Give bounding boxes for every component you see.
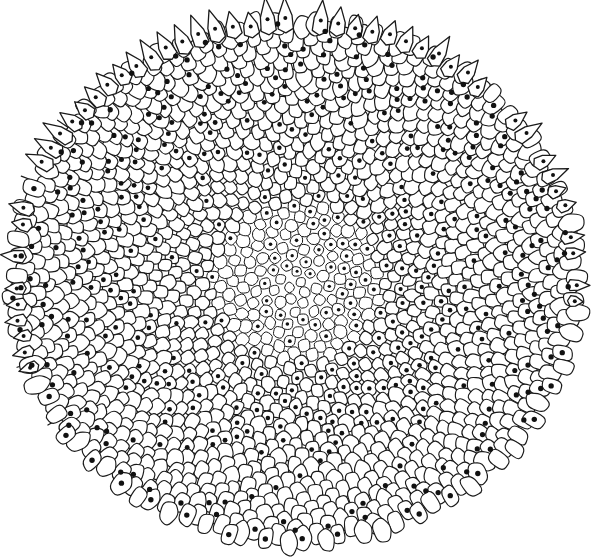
- floret-dot: [288, 339, 292, 343]
- floret-dot: [520, 298, 525, 303]
- floret-dot: [283, 162, 287, 166]
- floret-dot: [447, 289, 452, 294]
- floret-dot: [359, 421, 364, 426]
- floret-cell: [155, 325, 169, 338]
- floret-dot: [301, 318, 305, 322]
- floret-dot: [448, 493, 453, 498]
- floret-dot: [390, 212, 394, 216]
- bract-dot: [134, 64, 138, 68]
- floret-dot: [367, 88, 372, 93]
- floret-dot: [206, 84, 211, 89]
- floret-dot: [128, 301, 133, 306]
- floret-cell: [352, 253, 364, 265]
- floret-dot: [262, 100, 267, 105]
- floret-dot: [408, 390, 413, 395]
- floret-dot: [263, 195, 267, 199]
- floret-dot: [159, 166, 164, 171]
- bract-dot: [266, 17, 270, 21]
- floret-cell: [285, 294, 296, 305]
- floret-dot: [216, 150, 221, 155]
- bract-dot: [336, 22, 340, 26]
- floret-dot: [338, 84, 343, 89]
- floret-dot: [113, 325, 118, 330]
- floret-dot: [470, 144, 475, 149]
- floret-dot: [464, 469, 469, 474]
- floret-dot: [311, 222, 315, 226]
- floret-dot: [210, 428, 215, 433]
- bract-dot: [370, 30, 374, 34]
- floret-dot: [503, 218, 508, 223]
- floret-dot: [216, 374, 220, 378]
- floret-dot: [407, 96, 412, 101]
- floret-dot: [77, 236, 82, 241]
- floret-dot: [278, 424, 283, 429]
- floret-cell: [6, 268, 27, 283]
- floret-dot: [146, 112, 151, 117]
- floret-dot: [131, 437, 136, 442]
- floret-dot: [235, 434, 240, 439]
- floret-dot: [10, 295, 15, 300]
- floret-dot: [400, 330, 404, 334]
- floret-dot: [162, 105, 167, 110]
- floret-dot: [465, 94, 470, 99]
- floret-dot: [396, 346, 400, 350]
- floret-dot: [398, 463, 403, 468]
- floret-dot: [377, 215, 381, 219]
- floret-dot: [385, 52, 390, 57]
- floret-dot: [526, 390, 531, 395]
- floret-dot: [441, 465, 446, 470]
- floret-dot: [277, 145, 282, 150]
- floret-dot: [497, 284, 502, 289]
- floret-dot: [95, 207, 100, 212]
- floret-dot: [270, 92, 275, 97]
- floret-dot: [118, 469, 123, 474]
- floret-dot: [133, 160, 138, 165]
- bract-dot: [83, 108, 87, 112]
- capitulum-diagram: [0, 0, 600, 558]
- bract-dot: [575, 283, 579, 287]
- floret-dot: [364, 278, 368, 282]
- bract-dot: [164, 46, 168, 50]
- floret-dot: [114, 272, 119, 277]
- floret-dot: [327, 449, 332, 454]
- floret-dot: [327, 38, 332, 43]
- bract-dot: [249, 24, 253, 28]
- floret-cell: [334, 273, 346, 284]
- bract-dot: [180, 40, 184, 44]
- floret-dot: [281, 438, 286, 443]
- floret-dot: [317, 248, 321, 252]
- floret-dot: [448, 101, 453, 106]
- floret-dot: [166, 131, 171, 136]
- floret-dot: [462, 285, 467, 290]
- bract-dot: [213, 27, 217, 31]
- bract-dot: [319, 19, 323, 23]
- floret-dot: [309, 112, 314, 117]
- bract-dot: [466, 71, 470, 75]
- floret-dot: [541, 316, 546, 321]
- floret-dot: [169, 120, 174, 125]
- floret-dot: [566, 284, 571, 289]
- bract-dot: [571, 251, 575, 255]
- floret-dot: [337, 408, 342, 413]
- floret-dot: [142, 379, 147, 384]
- floret-dot: [372, 288, 376, 292]
- floret-dot: [330, 420, 335, 425]
- bract-dot: [23, 350, 27, 354]
- floret-dot: [119, 480, 124, 485]
- floret-dot: [364, 77, 369, 82]
- floret-dot: [484, 234, 489, 239]
- floret-dot: [453, 151, 458, 156]
- floret-dot: [411, 484, 416, 489]
- floret-dot: [198, 121, 203, 126]
- floret-dot: [295, 376, 299, 380]
- floret-dot: [513, 224, 518, 229]
- floret-dot: [279, 314, 282, 317]
- floret-dot: [300, 361, 304, 365]
- floret-dot: [226, 532, 231, 537]
- floret-dot: [275, 21, 280, 26]
- floret-dot: [537, 304, 542, 309]
- floret-dot: [349, 301, 353, 305]
- floret-dot: [303, 176, 307, 180]
- floret-dot: [421, 85, 426, 90]
- floret-dot: [475, 446, 480, 451]
